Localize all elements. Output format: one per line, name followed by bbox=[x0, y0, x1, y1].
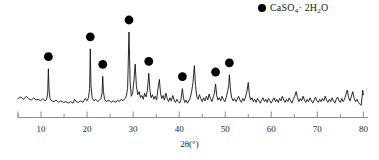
xrd-plot bbox=[0, 0, 379, 160]
x-tick-label: 60 bbox=[267, 124, 276, 134]
legend-label: CaSO4· 2H2O bbox=[270, 2, 328, 13]
peak-marker bbox=[144, 57, 153, 66]
xrd-figure: CaSO4· 2H2O 1020304050607080 2θ(°) bbox=[0, 0, 379, 160]
peak-marker-group bbox=[44, 16, 234, 81]
x-tick-label: 50 bbox=[221, 124, 230, 134]
legend-marker-icon bbox=[258, 4, 266, 12]
peak-marker bbox=[44, 52, 53, 61]
x-axis-title-text: 2θ(°) bbox=[180, 139, 198, 149]
x-tick-label: 40 bbox=[175, 124, 184, 134]
peak-marker bbox=[98, 60, 107, 69]
legend-text-end: O bbox=[321, 2, 328, 13]
x-tick-label: 10 bbox=[37, 124, 46, 134]
diffraction-trace bbox=[18, 32, 363, 105]
x-tick-label: 20 bbox=[83, 124, 92, 134]
legend-text-mid: · 2H bbox=[298, 2, 317, 13]
peak-marker bbox=[125, 16, 134, 25]
x-axis-group bbox=[18, 112, 368, 118]
peak-marker bbox=[86, 32, 95, 41]
x-tick-label: 30 bbox=[129, 124, 138, 134]
peak-marker bbox=[211, 68, 220, 77]
x-tick-label: 80 bbox=[359, 124, 368, 134]
legend-text-main: CaSO bbox=[270, 2, 295, 13]
legend: CaSO4· 2H2O bbox=[258, 2, 328, 13]
peak-marker bbox=[178, 72, 187, 81]
x-axis-title: 2θ(°) bbox=[0, 139, 379, 150]
peak-marker bbox=[225, 58, 234, 67]
x-tick-label: 70 bbox=[313, 124, 322, 134]
diffraction-trace-group bbox=[18, 32, 363, 105]
x-axis-ticks bbox=[18, 112, 363, 118]
